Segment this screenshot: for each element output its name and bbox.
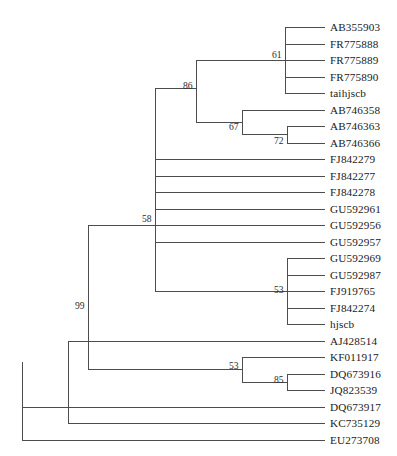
bootstrap-support-label: 86	[183, 81, 193, 91]
tip-label: hjscb	[330, 319, 354, 330]
tip-label: FR775888	[330, 39, 378, 50]
bootstrap-support-label: 53	[274, 285, 284, 295]
tip-label: KC735129	[330, 418, 380, 429]
bootstrap-support-label: 72	[274, 136, 284, 146]
tip-label: KF011917	[330, 352, 379, 363]
tip-label: AB746363	[330, 121, 380, 132]
tip-label: JQ823539	[330, 385, 377, 396]
tip-label: EU273708	[330, 435, 380, 446]
tip-label: FJ842278	[330, 187, 375, 198]
tip-label: DQ673916	[330, 369, 381, 380]
tip-label: GU592956	[330, 220, 381, 231]
tip-label: AB355903	[330, 22, 380, 33]
bootstrap-support-label: 53	[229, 361, 239, 371]
phylogenetic-tree-figure: AB355903FR775888FR775889FR775890taihjscb…	[0, 0, 397, 456]
tip-label: FJ842277	[330, 171, 375, 182]
bootstrap-support-label: 58	[142, 214, 152, 224]
tip-label: AB746366	[330, 138, 380, 149]
bootstrap-support-label: 67	[229, 122, 239, 132]
bootstrap-support-label: 99	[75, 301, 85, 311]
tip-label: GU592961	[330, 204, 381, 215]
tip-label: GU592957	[330, 237, 381, 248]
bootstrap-support-label: 61	[272, 50, 282, 60]
tip-label: FR775889	[330, 55, 378, 66]
tip-label: FJ842274	[330, 303, 375, 314]
tip-label: taihjscb	[330, 88, 366, 99]
tip-label: FJ842279	[330, 154, 375, 165]
tip-label: GU592987	[330, 270, 381, 281]
tip-label: FR775890	[330, 72, 378, 83]
bootstrap-support-label: 85	[274, 375, 284, 385]
tip-label: AJ428514	[330, 336, 377, 347]
tip-label: AB746358	[330, 105, 380, 116]
tip-label: FJ919765	[330, 286, 375, 297]
tip-label: DQ673917	[330, 402, 381, 413]
tip-label: GU592969	[330, 253, 381, 264]
